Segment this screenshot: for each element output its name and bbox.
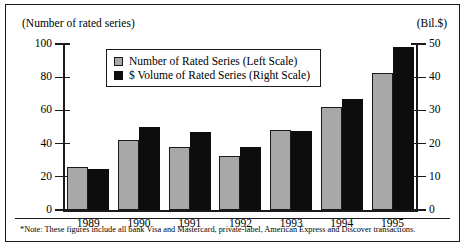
left-axis-tick-label: 80 <box>41 71 53 83</box>
bar-dollar-volume-of-rated-series <box>342 99 363 210</box>
legend-item: $ Volume of Rated Series (Right Scale) <box>114 68 310 82</box>
chart-figure: (Number of rated series) (Bil.$) 0204060… <box>0 0 465 246</box>
right-axis-tick-label: 50 <box>429 38 441 50</box>
x-axis-line <box>63 210 418 212</box>
bar-dollar-volume-of-rated-series <box>240 147 261 210</box>
legend-item-label: $ Volume of Rated Series (Right Scale) <box>129 69 310 81</box>
left-axis-tick-label: 60 <box>41 104 53 116</box>
bar-number-of-rated-series <box>321 107 342 210</box>
right-axis-tick-label: 30 <box>429 104 441 116</box>
bar-number-of-rated-series <box>270 130 291 210</box>
left-axis-tick <box>55 143 63 144</box>
bar-dollar-volume-of-rated-series <box>139 127 160 210</box>
right-axis-tick-label: 20 <box>429 138 441 150</box>
right-axis-tick <box>418 143 426 144</box>
black-square-icon <box>114 71 123 80</box>
left-axis-tick <box>55 209 63 210</box>
right-axis-tick-label: 10 <box>429 171 441 183</box>
chart-frame: (Number of rated series) (Bil.$) 0204060… <box>5 4 460 242</box>
left-axis-tick <box>55 77 63 78</box>
bar-number-of-rated-series <box>169 147 190 210</box>
footnote: *Note: These figures include all bank Vi… <box>20 224 415 235</box>
legend-item: Number of Rated Series (Left Scale) <box>114 54 310 68</box>
right-axis-tick <box>418 209 426 210</box>
bar-group: 1989 <box>67 44 109 210</box>
note-divider <box>15 218 450 219</box>
left-axis-tick <box>55 43 63 44</box>
right-axis-tick <box>418 176 426 177</box>
bar-group: 1995 <box>372 44 414 210</box>
right-axis-tick-label: 40 <box>429 71 441 83</box>
bar-number-of-rated-series <box>118 140 139 210</box>
right-axis-tick <box>418 77 426 78</box>
bar-dollar-volume-of-rated-series <box>190 132 211 210</box>
bar-number-of-rated-series <box>372 73 393 210</box>
right-axis-tick-label: 0 <box>429 204 435 216</box>
bar-number-of-rated-series <box>67 167 88 210</box>
right-axis-tick <box>418 110 426 111</box>
chart-legend: Number of Rated Series (Left Scale) $ Vo… <box>106 49 321 87</box>
bar-group: 1994 <box>321 44 363 210</box>
bar-number-of-rated-series <box>219 156 240 210</box>
right-axis-caption: (Bil.$) <box>417 17 447 30</box>
left-axis-tick <box>55 176 63 177</box>
left-axis-tick <box>55 110 63 111</box>
bar-dollar-volume-of-rated-series <box>291 131 312 210</box>
legend-item-label: Number of Rated Series (Left Scale) <box>129 55 297 67</box>
gray-square-icon <box>114 57 123 66</box>
left-axis-tick-label: 0 <box>46 204 52 216</box>
bar-dollar-volume-of-rated-series <box>88 169 109 210</box>
left-axis-tick-label: 40 <box>41 138 53 150</box>
left-axis-tick-label: 100 <box>35 38 52 50</box>
bar-dollar-volume-of-rated-series <box>393 47 414 210</box>
left-axis-tick-label: 20 <box>41 171 53 183</box>
right-axis-tick <box>418 43 426 44</box>
left-axis-caption: (Number of rated series) <box>22 17 135 30</box>
